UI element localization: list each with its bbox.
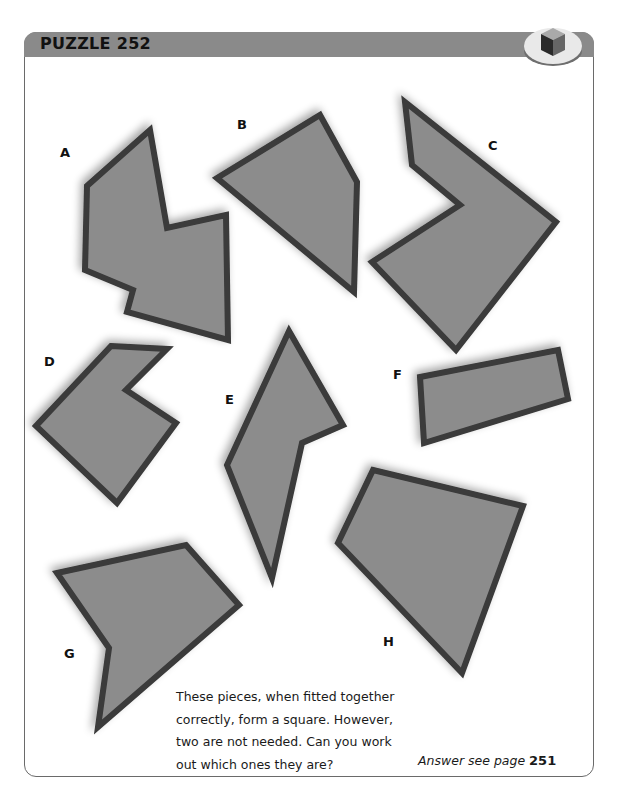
piece-label-d: D: [44, 354, 55, 369]
answer-prefix: Answer see page: [418, 753, 529, 768]
answer-page-number: 251: [529, 753, 556, 768]
piece-d: [36, 346, 176, 503]
piece-label-g: G: [64, 646, 75, 661]
piece-a: [85, 130, 228, 340]
piece-label-b: B: [237, 117, 247, 132]
piece-b: [217, 115, 357, 292]
piece-c: [372, 102, 556, 350]
description-line: out which ones they are?: [176, 754, 401, 777]
description-line: These pieces, when fitted together: [176, 686, 401, 709]
piece-h: [338, 470, 523, 673]
description-line: correctly, form a square. However,: [176, 709, 401, 732]
puzzle-description: These pieces, when fitted together corre…: [176, 686, 401, 776]
answer-reference: Answer see page 251: [418, 753, 556, 768]
piece-f: [420, 350, 568, 443]
piece-label-e: E: [225, 392, 234, 407]
piece-label-h: H: [383, 634, 394, 649]
piece-label-a: A: [60, 145, 70, 160]
description-line: two are not needed. Can you work: [176, 731, 401, 754]
piece-label-c: C: [488, 138, 498, 153]
piece-e: [227, 331, 343, 578]
piece-label-f: F: [393, 367, 402, 382]
